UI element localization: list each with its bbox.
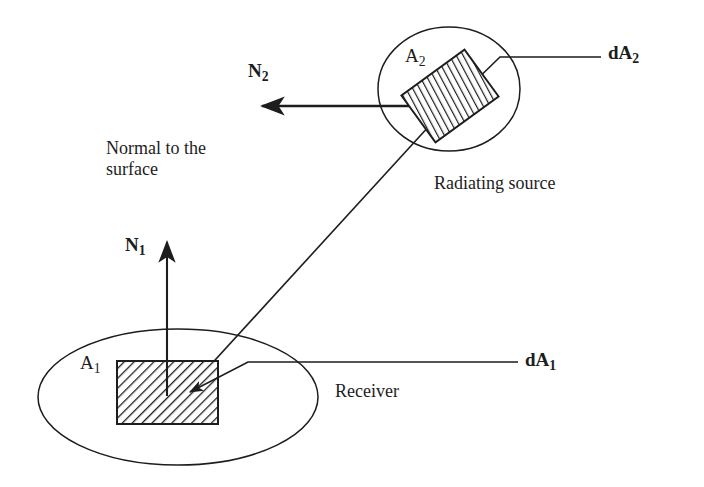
a2-label: A2 [405, 45, 426, 70]
radiation-ray [184, 101, 452, 394]
n2-label: N2 [248, 60, 269, 85]
da1-subscript: 1 [549, 358, 556, 373]
radiating-source-label: Radiating source [434, 173, 555, 194]
n1-subscript: 1 [139, 243, 146, 258]
da2-subscript: 2 [632, 51, 639, 66]
a1-subscript: 1 [94, 361, 101, 376]
radiative-exchange-diagram [0, 0, 704, 487]
normal-to-surface-label: Normal to thesurface [106, 138, 206, 180]
a1-label: A1 [80, 352, 101, 377]
diagram-canvas: N2 dA2 A2 Radiating source Normal to the… [0, 0, 704, 487]
a2-subscript: 2 [419, 54, 426, 69]
da1-label: dA1 [525, 349, 556, 374]
receiver-label: Receiver [335, 381, 399, 402]
n2-subscript: 2 [262, 69, 269, 84]
normal-line-2: surface [106, 159, 158, 179]
normal-line-1: Normal to the [106, 138, 206, 158]
n1-label: N1 [125, 234, 146, 259]
da2-label: dA2 [608, 42, 639, 67]
